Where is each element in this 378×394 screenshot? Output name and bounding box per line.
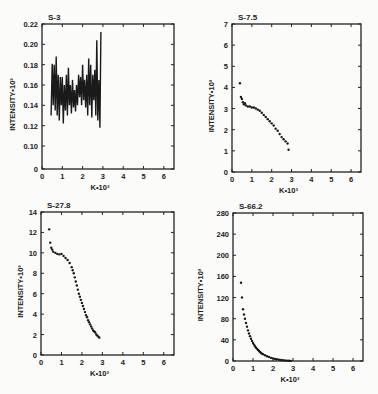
y-tick-label: 5: [224, 62, 228, 71]
plot-frame: [233, 213, 363, 361]
y-tick-label: 120: [216, 294, 229, 303]
data-point: [82, 305, 84, 307]
x-axis-label: K•10³: [91, 183, 110, 192]
data-point: [80, 299, 82, 301]
chart-panel-4: S-66.20123456K•10³04080120160200240280IN…: [196, 202, 363, 384]
data-point: [81, 302, 83, 304]
data-point: [77, 288, 79, 290]
y-tick-label: 0: [224, 168, 228, 177]
y-tick-label: 2: [33, 331, 37, 340]
data-point: [89, 323, 91, 325]
data-point: [68, 262, 70, 264]
y-tick-label: 6: [33, 290, 37, 299]
data-point: [245, 322, 247, 324]
data-point: [269, 120, 271, 122]
data-point: [276, 130, 278, 132]
y-tick-label: 10: [29, 249, 37, 258]
data-point: [51, 249, 53, 251]
data-point: [270, 122, 272, 124]
data-point: [244, 318, 246, 320]
x-tick-label: 2: [270, 175, 274, 184]
data-point: [52, 251, 54, 253]
x-tick-label: 4: [311, 364, 316, 373]
data-point: [278, 133, 280, 135]
data-point: [248, 332, 250, 334]
data-point: [98, 336, 100, 338]
data-point: [62, 255, 64, 257]
y-tick-label: 2: [224, 126, 228, 135]
x-tick-label: 2: [80, 358, 84, 367]
data-point: [280, 136, 282, 138]
data-point: [84, 311, 86, 313]
y-tick-label: 0.22: [23, 20, 38, 29]
y-tick-label: 0.18: [23, 61, 38, 70]
y-tick-label: 0.14: [23, 101, 38, 110]
panel-title: S-7.5: [238, 13, 258, 22]
x-tick-label: 6: [351, 364, 355, 373]
x-tick-label: 4: [309, 175, 314, 184]
data-point: [250, 338, 252, 340]
chart-panel-2: S-7.50123456K•10³01234567INTENSITY•10³: [207, 13, 361, 195]
x-tick-label: 1: [60, 172, 64, 181]
y-tick-label: 6: [224, 41, 228, 50]
data-point: [240, 282, 242, 284]
x-tick-label: 1: [250, 175, 254, 184]
y-tick-label: 240: [216, 230, 229, 239]
data-point: [240, 96, 242, 98]
x-tick-label: 6: [349, 175, 353, 184]
data-point: [70, 266, 72, 268]
x-tick-label: 3: [100, 358, 104, 367]
data-point: [274, 127, 276, 129]
data-point: [249, 335, 251, 337]
data-point: [75, 280, 77, 282]
x-tick-label: 1: [251, 364, 255, 373]
data-point: [88, 321, 90, 323]
y-tick-label: 200: [216, 251, 229, 260]
data-point: [49, 241, 51, 243]
x-tick-label: 6: [162, 172, 166, 181]
data-point: [272, 357, 274, 359]
data-point: [282, 138, 284, 140]
chart-panel-1: S-30123456K•10³00.100.120.140.160.180.20…: [8, 13, 174, 192]
y-axis-label: INTENSITY•10³: [8, 78, 17, 131]
data-point: [243, 313, 245, 315]
data-point: [286, 142, 288, 144]
x-axis-label: K•10³: [281, 375, 300, 384]
data-point: [246, 325, 248, 327]
chart-panel-3: S-27.80123456K•10³02468101214INTENSITY•1…: [16, 201, 174, 378]
data-point: [73, 272, 75, 274]
figure: S-30123456K•10³00.100.120.140.160.180.20…: [0, 0, 378, 394]
data-point: [90, 325, 92, 327]
y-tick-label: 0: [225, 357, 229, 366]
x-tick-label: 3: [289, 175, 293, 184]
x-tick-label: 3: [291, 364, 295, 373]
data-point: [265, 116, 267, 118]
plot-frame: [41, 212, 174, 355]
y-tick-label: 0: [33, 351, 37, 360]
x-tick-label: 0: [39, 358, 43, 367]
x-tick-label: 4: [121, 358, 126, 367]
y-tick-label: 0.16: [23, 81, 38, 90]
data-point: [259, 109, 261, 111]
x-axis-label: K•10³: [279, 186, 298, 195]
data-point: [278, 358, 280, 360]
data-point: [242, 308, 244, 310]
data-point: [66, 259, 68, 261]
panel-title: S-3: [48, 13, 61, 22]
y-tick-label: 160: [216, 272, 229, 281]
data-point: [72, 269, 74, 271]
data-point: [247, 329, 249, 331]
y-tick-label: 0.20: [23, 40, 38, 49]
y-tick-label: 0.10: [23, 142, 38, 151]
data-point: [270, 357, 272, 359]
y-axis-label: INTENSITY•10³: [207, 79, 216, 132]
data-point: [87, 319, 89, 321]
y-tick-label: 1: [224, 147, 228, 156]
panel-title: S-27.8: [47, 201, 71, 210]
x-tick-label: 0: [40, 172, 44, 181]
y-axis-label: INTENSITY•10³: [196, 268, 205, 321]
y-tick-label: 280: [216, 209, 229, 218]
y-tick-label: 40: [221, 336, 229, 345]
data-line: [51, 32, 101, 128]
data-point: [60, 253, 62, 255]
